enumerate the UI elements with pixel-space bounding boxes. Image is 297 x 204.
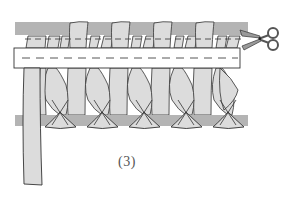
- hanging-strip: [23, 68, 42, 185]
- diagram-illustration: [0, 0, 297, 204]
- middle-strips: [39, 68, 238, 115]
- step-label: (3): [118, 154, 136, 170]
- weaving-diagram: (3): [0, 0, 297, 204]
